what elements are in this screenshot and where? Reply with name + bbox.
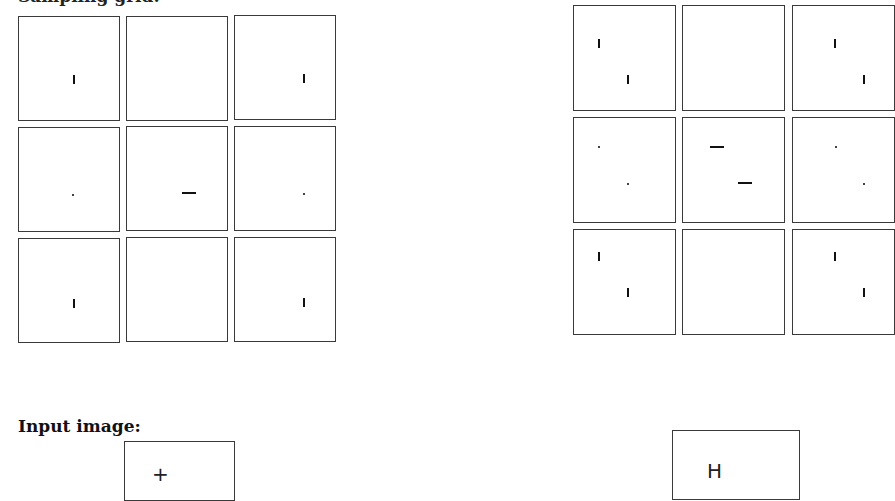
right-cell-r2c1 <box>573 117 676 223</box>
vertical-bar-mark <box>73 299 75 308</box>
dot-mark <box>863 183 865 185</box>
left-cell-r3c2 <box>126 237 228 342</box>
left-cell-r3c3 <box>234 237 336 342</box>
right-cell-r1c1 <box>573 5 676 111</box>
vertical-bar-mark <box>627 75 629 84</box>
horizontal-bar-mark <box>182 192 196 194</box>
left-cell-r2c2 <box>126 126 228 231</box>
dot-mark <box>627 183 629 185</box>
right-cell-r1c2 <box>682 5 785 111</box>
vertical-bar-mark <box>303 298 305 307</box>
vertical-bar-mark <box>73 75 75 84</box>
dot-mark <box>72 194 74 196</box>
dot-mark <box>835 146 837 148</box>
vertical-bar-mark <box>598 252 600 261</box>
dot-mark <box>303 193 305 195</box>
horizontal-bar-mark <box>738 182 752 184</box>
left-cell-r1c2 <box>126 16 228 121</box>
right-cell-r1c3 <box>792 5 895 111</box>
vertical-bar-mark <box>834 252 836 261</box>
input-image-left: + <box>124 441 235 501</box>
input-image-label: Input image: <box>18 416 141 436</box>
vertical-bar-mark <box>303 74 305 83</box>
top-caption-fragment: Sampling grid: <box>18 0 160 6</box>
plus-glyph: + <box>152 464 169 484</box>
vertical-bar-mark <box>598 39 600 48</box>
left-cell-r1c1 <box>18 16 120 121</box>
input-image-right: H <box>672 430 800 500</box>
left-cell-r2c3 <box>234 126 336 231</box>
vertical-bar-mark <box>627 288 629 297</box>
h-glyph: H <box>707 461 722 481</box>
vertical-bar-mark <box>834 39 836 48</box>
right-cell-r3c2 <box>682 229 785 335</box>
left-cell-r2c1 <box>18 127 120 232</box>
right-cell-r3c3 <box>792 229 895 335</box>
dot-mark <box>598 146 600 148</box>
right-cell-r3c1 <box>573 229 676 335</box>
vertical-bar-mark <box>863 288 865 297</box>
right-cell-r2c2 <box>682 117 785 223</box>
horizontal-bar-mark <box>710 146 724 148</box>
left-cell-r1c3 <box>234 15 336 120</box>
left-cell-r3c1 <box>18 238 120 343</box>
right-cell-r2c3 <box>792 117 895 223</box>
vertical-bar-mark <box>863 75 865 84</box>
